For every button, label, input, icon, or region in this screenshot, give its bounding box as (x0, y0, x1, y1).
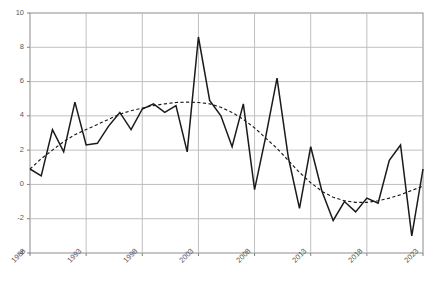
y-axis-tick-label: 2 (2, 146, 24, 154)
data-line-series (30, 37, 423, 236)
chart-container: -4-20246810 1988199319982003200820132018… (0, 0, 430, 286)
y-axis-tick-label: -2 (2, 214, 24, 222)
y-axis-tick-label: 4 (2, 111, 24, 119)
chart-plot-area (0, 0, 430, 286)
y-axis-tick-label: 0 (2, 180, 24, 188)
trend-line-series (30, 102, 423, 202)
horizontal-gridlines (30, 13, 423, 219)
y-axis-tick-label: 10 (2, 9, 24, 17)
y-axis-tick-label: 8 (2, 43, 24, 51)
y-axis-tick-label: 6 (2, 77, 24, 85)
